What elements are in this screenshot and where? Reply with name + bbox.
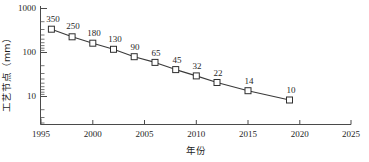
data-line bbox=[51, 29, 289, 100]
x-axis-title: 年份 bbox=[186, 146, 206, 156]
y-minor-ticks bbox=[41, 22, 45, 123]
x-tick-label-2020: 2020 bbox=[291, 130, 309, 139]
y-tick-label-100: 100 bbox=[14, 48, 36, 57]
x-tick-label-2010: 2010 bbox=[187, 130, 205, 139]
x-tick-label-1995: 1995 bbox=[32, 130, 50, 139]
chart-canvas bbox=[0, 0, 369, 162]
point-label-45: 45 bbox=[173, 56, 182, 65]
x-tick-label-2005: 2005 bbox=[136, 130, 154, 139]
point-label-250: 250 bbox=[66, 22, 80, 31]
point-label-130: 130 bbox=[108, 35, 122, 44]
point-label-180: 180 bbox=[87, 29, 101, 38]
x-tick-label-2000: 2000 bbox=[84, 130, 102, 139]
x-tick-label-2025: 2025 bbox=[342, 130, 360, 139]
point-label-22: 22 bbox=[214, 69, 223, 78]
point-label-32: 32 bbox=[193, 62, 202, 71]
process-node-chart: 1000 100 10 1995 2000 2005 2010 2015 202… bbox=[0, 0, 369, 162]
x-tick-label-2015: 2015 bbox=[239, 130, 257, 139]
point-label-14: 14 bbox=[245, 77, 254, 86]
point-label-10: 10 bbox=[287, 86, 296, 95]
point-label-90: 90 bbox=[131, 43, 140, 52]
point-label-65: 65 bbox=[152, 49, 161, 58]
point-label-350: 350 bbox=[46, 15, 60, 24]
x-ticks bbox=[41, 119, 351, 125]
y-tick-label-1000: 1000 bbox=[14, 4, 36, 13]
y-tick-label-10: 10 bbox=[14, 92, 36, 101]
y-axis-title: 工艺节点（mm） bbox=[2, 33, 12, 112]
data-markers bbox=[48, 26, 292, 103]
